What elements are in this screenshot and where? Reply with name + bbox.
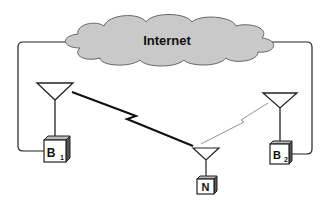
wireless-link-b2-n [201, 103, 268, 144]
node-n: N [193, 148, 219, 194]
b1-subscript: 1 [60, 154, 64, 161]
antenna-icon [37, 83, 73, 136]
internet-label: Internet [143, 33, 191, 48]
antenna-icon [193, 148, 219, 176]
network-diagram: Internet B 1 B 2 N [0, 0, 327, 204]
b2-subscript: 2 [284, 156, 288, 163]
base-station-b2: B 2 [263, 93, 297, 164]
antenna-icon [263, 93, 297, 141]
internet-cloud: Internet [65, 15, 273, 67]
base-station-b1: B 1 [37, 83, 73, 162]
b2-letter: B [273, 149, 281, 161]
n-letter: N [202, 181, 210, 193]
b1-letter: B [47, 146, 56, 160]
wireless-link-b1-n [72, 92, 193, 146]
